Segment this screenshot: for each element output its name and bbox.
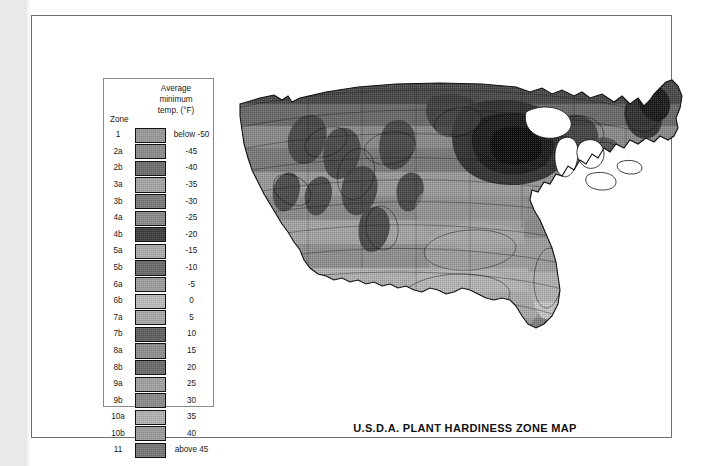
legend-zone-label: 9a: [104, 379, 132, 388]
legend-temp-label: 40: [168, 429, 215, 438]
legend-color-swatch: [135, 144, 166, 159]
legend-row: 4a-25: [104, 210, 215, 227]
legend-header-line-2: minimum: [145, 94, 207, 105]
legend-row: 7a5: [104, 310, 215, 327]
legend-temp-label: 15: [168, 346, 215, 355]
legend-row: 7b10: [104, 326, 215, 343]
legend-temp-label: -45: [168, 147, 215, 156]
legend-temp-label: -40: [168, 163, 215, 172]
legend-temp-label: -25: [168, 213, 215, 222]
legend-row-list: 1below -502a-452b-403a-353b-304a-254b-20…: [104, 127, 215, 459]
legend-row: 6b0: [104, 293, 215, 310]
legend-color-swatch: [135, 244, 166, 259]
legend-color-swatch: [135, 227, 166, 242]
legend-zone-label: 7a: [104, 313, 132, 322]
legend-row: 1below -50: [104, 127, 215, 144]
legend-zone-label: 1: [104, 130, 132, 139]
legend-color-swatch: [135, 260, 166, 275]
legend-temp-label: above 45: [168, 445, 215, 454]
legend-row: 5a-15: [104, 243, 215, 260]
usda-hardiness-map: [230, 78, 700, 398]
legend-zone-label: 4a: [104, 213, 132, 222]
legend-row: 5b-10: [104, 260, 215, 277]
legend-color-swatch: [135, 443, 166, 458]
legend-row: 6a-5: [104, 276, 215, 293]
legend-color-swatch: [135, 360, 166, 375]
legend-row: 2b-40: [104, 160, 215, 177]
legend-color-swatch: [135, 277, 166, 292]
legend-color-swatch: [135, 343, 166, 358]
legend-temp-label: 20: [168, 363, 215, 372]
legend-color-swatch: [135, 128, 166, 143]
lake-erie: [586, 172, 616, 190]
legend-color-swatch: [135, 310, 166, 325]
lake-michigan: [555, 137, 578, 176]
legend-color-swatch: [135, 377, 166, 392]
legend-zone-label: 10b: [104, 429, 132, 438]
legend-row: 8b20: [104, 359, 215, 376]
legend-row: 8a15: [104, 343, 215, 360]
legend-panel: Average minimum temp. (°F) Zone 1below -…: [103, 78, 214, 407]
legend-zone-label: 6a: [104, 280, 132, 289]
legend-zone-label: 2b: [104, 163, 132, 172]
legend-row: 11above 45: [104, 442, 215, 459]
legend-temp-label: 35: [168, 412, 215, 421]
left-margin-band: [0, 0, 27, 466]
legend-header: Average minimum temp. (°F): [145, 83, 207, 117]
map-title: U.S.D.A. PLANT HARDINESS ZONE MAP: [230, 422, 700, 434]
legend-header-line-1: Average: [145, 83, 207, 94]
legend-color-swatch: [135, 294, 166, 309]
legend-color-swatch: [135, 327, 166, 342]
legend-temp-label: -20: [168, 230, 215, 239]
legend-row: 3b-30: [104, 193, 215, 210]
legend-temp-label: 25: [168, 379, 215, 388]
legend-temp-label: -15: [168, 246, 215, 255]
legend-zone-caption: Zone: [110, 115, 129, 124]
legend-zone-label: 5a: [104, 246, 132, 255]
legend-temp-label: below -50: [168, 130, 215, 139]
legend-row: 9b30: [104, 393, 215, 410]
legend-color-swatch: [135, 194, 166, 209]
legend-color-swatch: [135, 426, 166, 441]
legend-color-swatch: [135, 211, 166, 226]
legend-zone-label: 5b: [104, 263, 132, 272]
map-svg: [230, 78, 700, 398]
legend-zone-label: 4b: [104, 230, 132, 239]
legend-temp-label: -5: [168, 280, 215, 289]
legend-zone-label: 6b: [104, 296, 132, 305]
legend-zone-label: 8b: [104, 363, 132, 372]
legend-color-swatch: [135, 393, 166, 408]
legend-zone-label: 7b: [104, 329, 132, 338]
map-landmass: [230, 78, 700, 398]
legend-zone-label: 10a: [104, 412, 132, 421]
legend-row: 2a-45: [104, 144, 215, 161]
legend-temp-label: 0: [168, 296, 215, 305]
legend-zone-label: 11: [104, 445, 132, 454]
legend-color-swatch: [135, 161, 166, 176]
legend-row: 10b40: [104, 426, 215, 443]
legend-row: 4b-20: [104, 227, 215, 244]
lake-ontario: [617, 160, 642, 174]
legend-temp-label: -35: [168, 180, 215, 189]
legend-zone-label: 3b: [104, 197, 132, 206]
legend-temp-label: 30: [168, 396, 215, 405]
map-plate: Average minimum temp. (°F) Zone 1below -…: [31, 15, 672, 438]
legend-zone-label: 2a: [104, 147, 132, 156]
legend-zone-label: 8a: [104, 346, 132, 355]
legend-color-swatch: [135, 177, 166, 192]
legend-temp-label: -10: [168, 263, 215, 272]
legend-temp-label: 10: [168, 329, 215, 338]
left-margin-band-edge: [27, 0, 30, 466]
legend-header-line-3: temp. (°F): [145, 105, 207, 116]
legend-temp-label: -30: [168, 197, 215, 206]
legend-zone-label: 9b: [104, 396, 132, 405]
legend-color-swatch: [135, 410, 166, 425]
legend-row: 10a35: [104, 409, 215, 426]
legend-row: 3a-35: [104, 177, 215, 194]
legend-temp-label: 5: [168, 313, 215, 322]
legend-zone-label: 3a: [104, 180, 132, 189]
legend-row: 9a25: [104, 376, 215, 393]
